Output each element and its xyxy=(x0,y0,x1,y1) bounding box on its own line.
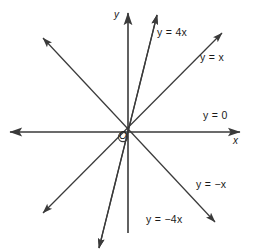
y-axis-label: y xyxy=(114,10,119,20)
coordinate-plane-svg xyxy=(0,0,255,250)
axes-group xyxy=(10,13,240,233)
origin-label: O xyxy=(119,131,127,141)
label-y-eq-4x: y = 4x xyxy=(157,27,187,38)
x-axis-label: x xyxy=(233,136,238,146)
label-y-eq-0: y = 0 xyxy=(203,110,228,121)
label-y-eq-x: y = x xyxy=(200,52,224,63)
label-y-eq-minus-4x: y = −4x xyxy=(146,214,183,225)
label-y-eq-minus-x: y = −x xyxy=(196,179,226,190)
line-graph-figure: y x O y = 4x y = x y = 0 y = −x y = −4x xyxy=(0,0,255,250)
